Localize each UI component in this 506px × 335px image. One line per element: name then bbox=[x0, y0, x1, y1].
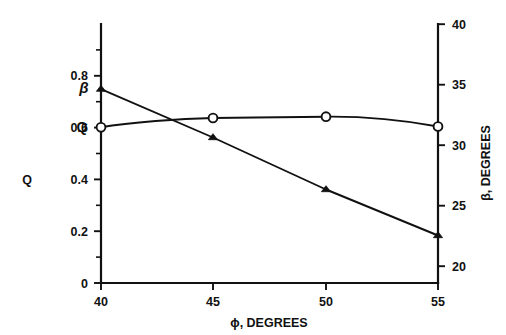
series-q-marker-0 bbox=[97, 123, 106, 132]
series-q-marker-2 bbox=[322, 112, 331, 121]
q-curve-label: Q bbox=[77, 119, 88, 135]
chart-svg: 0 0.2 0.4 0.6 0.8 Q 20 25 30 35 40 β, DE… bbox=[0, 0, 506, 335]
y-axis-right-ticklabel-4: 40 bbox=[452, 18, 466, 32]
x-axis-title: ϕ, DEGREES bbox=[230, 316, 307, 330]
series-q bbox=[97, 112, 443, 131]
series-beta-line bbox=[101, 89, 438, 235]
series-q-marker-1 bbox=[209, 114, 218, 123]
y-axis-right-ticklabel-2: 30 bbox=[452, 139, 466, 153]
x-axis-ticklabel-3: 55 bbox=[431, 295, 445, 309]
y-axis-right-ticklabel-3: 35 bbox=[452, 78, 466, 92]
chart-figure: 0 0.2 0.4 0.6 0.8 Q 20 25 30 35 40 β, DE… bbox=[0, 0, 506, 335]
series-beta-marker-0 bbox=[96, 85, 105, 91]
y-axis-right-ticklabel-0: 20 bbox=[452, 260, 466, 274]
x-axis-ticklabel-0: 40 bbox=[94, 295, 108, 309]
x-axis-ticklabel-2: 50 bbox=[319, 295, 333, 309]
series-q-marker-3 bbox=[434, 122, 443, 131]
y-axis-left-ticklabel-1: 0.2 bbox=[71, 225, 88, 239]
x-axis-ticklabel-1: 45 bbox=[206, 295, 220, 309]
y-axis-left-ticklabel-0: 0 bbox=[81, 277, 88, 291]
y-axis-right-ticklabel-1: 25 bbox=[452, 199, 466, 213]
y-axis-right-title: β, DEGREES bbox=[479, 125, 493, 201]
series-beta bbox=[96, 85, 442, 237]
y-axis-left-title: Q bbox=[22, 173, 32, 187]
series-q-line bbox=[101, 117, 438, 128]
y-axis-left-ticklabel-2: 0.4 bbox=[71, 173, 88, 187]
beta-curve-label: β bbox=[78, 79, 88, 96]
